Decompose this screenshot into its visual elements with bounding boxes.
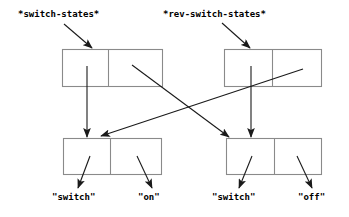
cons-cell-diagram: *switch-states* *rev-switch-states* "swi… bbox=[0, 0, 349, 217]
arrow-rev-switch-states-to-cons bbox=[222, 23, 250, 48]
variable-label-rev-switch-states: *rev-switch-states* bbox=[163, 9, 266, 19]
cons-cell-box bbox=[64, 139, 162, 175]
cons-cell-bottom-right bbox=[227, 139, 322, 175]
cons-cell-bottom-left bbox=[64, 139, 162, 175]
atom-label-bottom-left-car: "switch" bbox=[52, 192, 95, 202]
cons-cell-top-right bbox=[225, 50, 322, 87]
cons-cell-box bbox=[63, 50, 163, 87]
atom-label-bottom-left-cdr: "on" bbox=[138, 192, 160, 202]
arrow-bottomright-car-to-atom bbox=[239, 156, 252, 188]
diagram-canvas: *switch-states* *rev-switch-states* "swi… bbox=[0, 0, 349, 217]
arrow-topright-cdr-to-bottomleft bbox=[101, 69, 303, 136]
arrow-switch-states-to-cons bbox=[64, 24, 92, 48]
arrow-bottomleft-car-to-atom bbox=[78, 156, 90, 188]
variable-label-switch-states: *switch-states* bbox=[18, 9, 99, 19]
arrow-bottomleft-cdr-to-atom bbox=[137, 156, 152, 188]
arrow-bottomright-cdr-to-atom bbox=[297, 156, 312, 188]
atom-label-bottom-right-cdr: "off" bbox=[298, 192, 325, 202]
atom-label-bottom-right-car: "switch" bbox=[212, 192, 255, 202]
arrow-topleft-cdr-to-bottomright bbox=[132, 65, 229, 137]
cons-cell-top-left bbox=[63, 50, 163, 87]
